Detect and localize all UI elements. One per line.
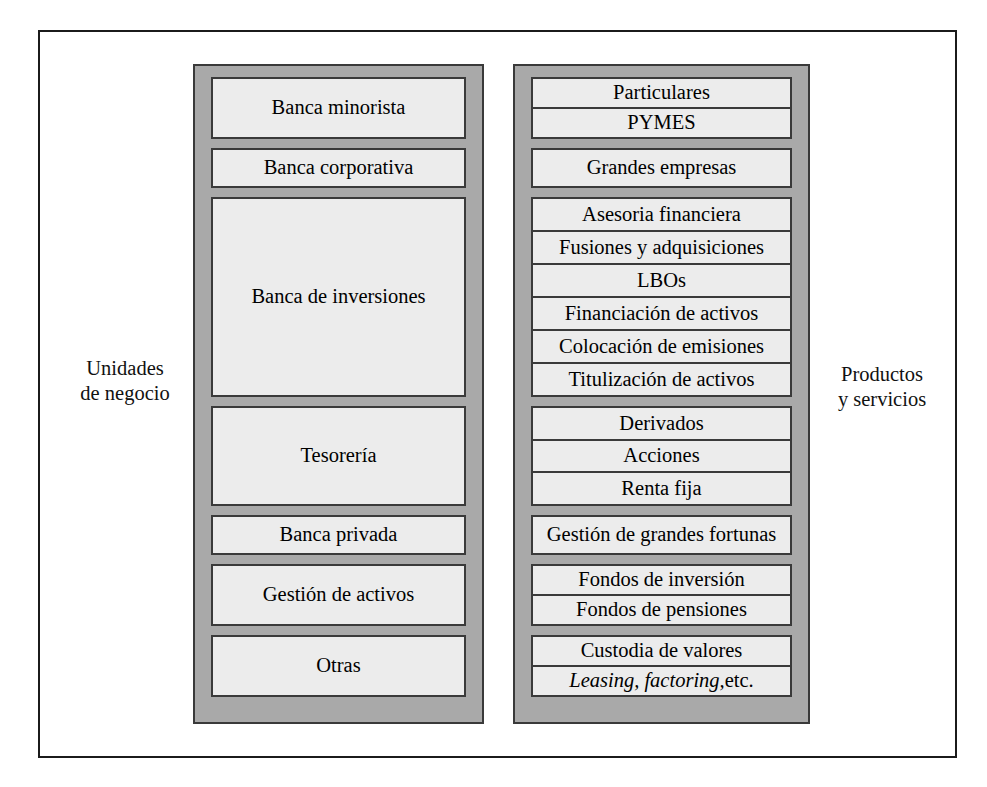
group-private-banking-products: Gestión de grandes fortunas bbox=[531, 515, 792, 555]
box-lbos: LBOs bbox=[533, 263, 790, 296]
box-financiacion-de-activos: Financiación de activos bbox=[533, 296, 790, 329]
box-banca-privada: Banca privada bbox=[213, 517, 464, 553]
box-gestion-de-activos: Gestión de activos bbox=[213, 566, 464, 624]
box-colocacion-de-emisiones: Colocación de emisiones bbox=[533, 329, 790, 362]
left-axis-label: Unidades de negocio bbox=[60, 356, 190, 406]
group-banca-minorista: Banca minorista bbox=[211, 77, 466, 139]
business-units-products-diagram: Unidades de negocio Productos y servicio… bbox=[0, 0, 987, 787]
box-titulizacion-de-activos: Titulización de activos bbox=[533, 362, 790, 395]
box-renta-fija: Renta fija bbox=[533, 471, 790, 504]
box-leasing-factoring-etc: Leasing, factoring, etc. bbox=[533, 665, 790, 695]
group-corporate-products: Grandes empresas bbox=[531, 148, 792, 188]
box-banca-corporativa: Banca corporativa bbox=[213, 150, 464, 186]
group-treasury-products: Derivados Acciones Renta fija bbox=[531, 406, 792, 506]
right-axis-label-line1: Productos bbox=[818, 362, 946, 387]
group-investment-banking-products: Asesoria financiera Fusiones y adquisici… bbox=[531, 197, 792, 397]
box-banca-de-inversiones: Banca de inversiones bbox=[213, 199, 464, 395]
group-banca-corporativa: Banca corporativa bbox=[211, 148, 466, 188]
box-banca-minorista: Banca minorista bbox=[213, 79, 464, 137]
group-asset-management-products: Fondos de inversión Fondos de pensiones bbox=[531, 564, 792, 626]
group-banca-privada: Banca privada bbox=[211, 515, 466, 555]
box-grandes-empresas: Grandes empresas bbox=[533, 150, 790, 186]
box-tesoreria: Tesorería bbox=[213, 408, 464, 504]
box-acciones: Acciones bbox=[533, 439, 790, 472]
box-fusiones-y-adquisiciones: Fusiones y adquisiciones bbox=[533, 230, 790, 263]
box-fondos-de-inversion: Fondos de inversión bbox=[533, 566, 790, 594]
group-gestion-de-activos: Gestión de activos bbox=[211, 564, 466, 626]
group-otras: Otras bbox=[211, 635, 466, 697]
group-tesoreria: Tesorería bbox=[211, 406, 466, 506]
box-particulares: Particulares bbox=[533, 79, 790, 107]
leasing-factoring-tail: etc. bbox=[725, 669, 754, 693]
right-axis-label: Productos y servicios bbox=[818, 362, 946, 412]
group-retail-products: Particulares PYMES bbox=[531, 77, 792, 139]
column-business-units: Banca minorista Banca corporativa Banca … bbox=[193, 64, 484, 724]
group-other-products: Custodia de valores Leasing, factoring, … bbox=[531, 635, 792, 697]
box-otras: Otras bbox=[213, 637, 464, 695]
left-axis-label-line1: Unidades bbox=[60, 356, 190, 381]
box-custodia-de-valores: Custodia de valores bbox=[533, 637, 790, 665]
right-axis-label-line2: y servicios bbox=[818, 387, 946, 412]
group-banca-de-inversiones: Banca de inversiones bbox=[211, 197, 466, 397]
column-products-services: Particulares PYMES Grandes empresas Ases… bbox=[513, 64, 810, 724]
box-derivados: Derivados bbox=[533, 408, 790, 439]
box-gestion-de-grandes-fortunas: Gestión de grandes fortunas bbox=[533, 517, 790, 553]
left-axis-label-line2: de negocio bbox=[60, 381, 190, 406]
leasing-factoring-italic: Leasing, factoring, bbox=[569, 669, 724, 693]
box-asesoria-financiera: Asesoria financiera bbox=[533, 199, 790, 230]
box-pymes: PYMES bbox=[533, 107, 790, 137]
box-fondos-de-pensiones: Fondos de pensiones bbox=[533, 594, 790, 624]
